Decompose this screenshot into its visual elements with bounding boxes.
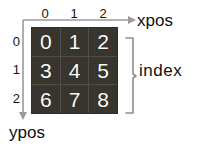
index-bracket-label: index: [139, 62, 182, 79]
y-tick-2: 2: [8, 92, 20, 105]
grid-cell: 0: [32, 28, 60, 56]
y-tick-1: 1: [8, 63, 20, 76]
grid-cell: 5: [89, 57, 117, 85]
x-tick-2: 2: [95, 7, 111, 20]
y-axis-arrowhead: [19, 112, 27, 120]
x-tick-1: 1: [66, 7, 82, 20]
grid-cell: 6: [32, 85, 60, 113]
grid-cell: 4: [61, 57, 89, 85]
grid-cell: 8: [89, 85, 117, 113]
x-axis-label: xpos: [137, 12, 173, 29]
x-tick-0: 0: [37, 7, 53, 20]
y-axis-label: ypos: [9, 124, 45, 141]
grid-cell: 1: [61, 28, 89, 56]
grid-cell: 2: [89, 28, 117, 56]
grid-cell: 7: [61, 85, 89, 113]
x-axis-arrowhead: [128, 16, 136, 24]
index-grid: 0 1 2 3 4 5 6 7 8: [31, 27, 118, 114]
diagram-canvas: 0 1 2 0 1 2 xpos ypos 0 1 2 3 4 5 6 7 8 …: [0, 0, 202, 148]
y-tick-0: 0: [8, 35, 20, 48]
grid-cell: 3: [32, 57, 60, 85]
index-bracket: [126, 38, 136, 113]
